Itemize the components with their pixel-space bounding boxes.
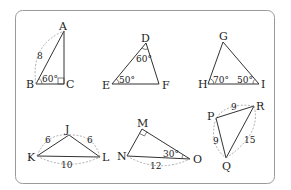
- vertex-label-a: A: [58, 20, 68, 33]
- side-label-kj: 6: [45, 135, 51, 145]
- side-label-qr: 15: [244, 135, 256, 145]
- vertex-label-j: J: [64, 123, 69, 136]
- vertex-label-k: K: [27, 151, 36, 164]
- side-label-pq: 9: [213, 136, 219, 146]
- triangles-figure: A B C 8 60° D E F 60° 50° G H I 70° 50° …: [0, 0, 291, 190]
- side-label-jl: 6: [87, 135, 93, 145]
- triangle-pqr: P Q R 9 9 15: [207, 100, 265, 173]
- vertex-label-o: O: [193, 153, 202, 166]
- angle-label-h: 70°: [213, 75, 229, 85]
- angle-label-d: 60°: [136, 54, 152, 64]
- triangle-jkl: J K L 6 6 10: [27, 123, 110, 170]
- vertex-label-g: G: [219, 30, 228, 43]
- angle-arc-d: [142, 48, 148, 49]
- side-label-no: 12: [150, 161, 161, 171]
- angle-arc-i: [253, 80, 255, 85]
- vertex-label-r: R: [256, 100, 265, 113]
- vertex-label-f: F: [162, 79, 170, 92]
- triangle-mno-shape: [127, 129, 190, 159]
- vertex-label-e: E: [102, 79, 110, 92]
- right-angle-mark-c: [58, 78, 64, 84]
- triangle-pqr-shape: [216, 106, 254, 158]
- angle-label-i: 50°: [237, 75, 253, 85]
- angle-label-b: 60°: [42, 74, 58, 84]
- angle-arc-o: [182, 155, 183, 159]
- vertex-label-p: P: [207, 110, 215, 123]
- triangle-abc: A B C 8 60°: [26, 20, 74, 91]
- vertex-label-h: H: [198, 78, 208, 91]
- triangle-def: D E F 60° 50°: [102, 32, 170, 92]
- vertex-label-i: I: [261, 78, 265, 91]
- side-label-kl: 10: [61, 160, 73, 170]
- vertex-label-b: B: [26, 78, 34, 91]
- side-label-pr: 9: [231, 102, 237, 112]
- angle-label-e: 50°: [119, 75, 135, 85]
- triangle-ghi: G H I 70° 50°: [198, 30, 265, 91]
- vertex-label-q: Q: [222, 160, 231, 173]
- side-label-ab: 8: [37, 51, 43, 61]
- angle-label-o: 30°: [163, 149, 179, 159]
- triangle-mno: M N O 30° 12: [117, 117, 202, 171]
- vertex-label-l: L: [102, 151, 110, 164]
- vertex-label-d: D: [141, 32, 150, 45]
- vertex-label-m: M: [137, 117, 148, 130]
- vertex-label-c: C: [66, 78, 74, 91]
- vertex-label-n: N: [117, 150, 127, 163]
